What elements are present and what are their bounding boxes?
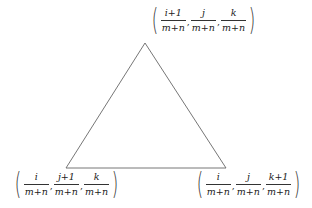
triangle-outline <box>66 43 226 168</box>
coordinate-k: km+n <box>221 8 246 32</box>
open-paren: ( <box>15 169 21 199</box>
close-paren: ) <box>112 169 118 199</box>
coordinate-j: jm+n <box>236 172 261 196</box>
close-paren: ) <box>249 5 255 35</box>
coordinate-j: j+1m+n <box>54 172 79 196</box>
coordinate-i: im+n <box>24 172 49 196</box>
open-paren: ( <box>197 169 203 199</box>
coordinate-k: k+1m+n <box>266 172 291 196</box>
close-paren: ) <box>294 169 300 199</box>
vertex-label-bottom-right: ( im+n , jm+n , k+1m+n ) <box>194 169 303 199</box>
vertex-label-bottom-left: ( im+n , j+1m+n , km+n ) <box>12 169 121 199</box>
vertex-label-top: ( i+1m+n , jm+n , km+n ) <box>149 5 258 35</box>
open-paren: ( <box>152 5 158 35</box>
coordinate-i: i+1m+n <box>161 8 186 32</box>
coordinate-k: km+n <box>84 172 109 196</box>
coordinate-j: jm+n <box>191 8 216 32</box>
coordinate-i: im+n <box>206 172 231 196</box>
